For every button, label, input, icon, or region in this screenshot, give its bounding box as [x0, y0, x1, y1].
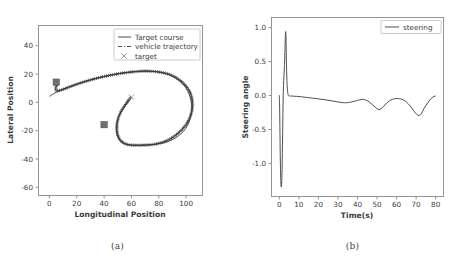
legend-label-target-course: Target course — [134, 33, 184, 42]
x-tick-label: 30 — [333, 200, 343, 209]
obstacle-marker — [101, 121, 107, 127]
y-tick-label: -20 — [21, 126, 33, 135]
y-axis-title: Steering angle — [241, 76, 250, 139]
legend-a: Target course vehicle trajectory target — [114, 29, 200, 61]
x-tick-label: 40 — [353, 200, 363, 209]
x-tick-label: 60 — [127, 199, 137, 208]
x-tick-label: 40 — [100, 199, 110, 208]
legend-label-target: target — [135, 52, 157, 61]
y-tick-label: 20 — [24, 70, 34, 79]
y-tick-label: 0.5 — [255, 57, 266, 66]
x-tick-label: 50 — [372, 200, 382, 209]
figure-container: 40 20 0 -20 -40 -60 Lateral Position 0 — [0, 0, 470, 258]
plot-frame-b — [272, 18, 444, 197]
x-tick-label: 80 — [431, 200, 441, 209]
axes-box — [272, 18, 444, 197]
y-tick-label: -40 — [21, 155, 33, 164]
y-tick-label: 0 — [28, 98, 33, 107]
y-tick-label: 1.0 — [255, 23, 267, 32]
trajectory-plot: 40 20 0 -20 -40 -60 Lateral Position 0 — [0, 0, 235, 232]
x-tick-label: 80 — [154, 199, 164, 208]
obstacle-marker — [53, 79, 59, 85]
subplot-b: 1.0 0.5 0.0 -0.5 -1.0 Steering angle 0 1… — [235, 0, 470, 258]
y-tick-label: 0.0 — [255, 91, 267, 100]
x-tick-label: 70 — [412, 200, 422, 209]
y-tick-label: -1.0 — [252, 159, 266, 168]
steering-plot: 1.0 0.5 0.0 -0.5 -1.0 Steering angle 0 1… — [235, 0, 470, 232]
y-tick-label: -0.5 — [252, 125, 266, 134]
y-axis-a: 40 20 0 -20 -40 -60 Lateral Position — [6, 41, 39, 192]
x-axis-b: 0 10 20 30 40 50 60 70 80 Time(s) — [277, 197, 441, 221]
x-tick-label: 20 — [72, 199, 82, 208]
x-tick-label: 100 — [179, 199, 193, 208]
y-axis-title: Lateral Position — [6, 76, 15, 144]
y-axis-b: 1.0 0.5 0.0 -0.5 -1.0 Steering angle — [241, 23, 272, 168]
subplot-caption-b: (b) — [235, 241, 470, 251]
subplot-caption-a: (a) — [0, 241, 235, 251]
legend-b: steering — [381, 21, 441, 34]
y-tick-group — [269, 28, 272, 164]
x-axis-a: 0 20 40 60 80 100 Longitudinal Position — [47, 196, 193, 220]
y-tick-label: 40 — [24, 41, 34, 50]
x-tick-label: 0 — [47, 199, 52, 208]
y-tick-label: -60 — [21, 183, 33, 192]
legend-label-steering: steering — [403, 23, 432, 32]
x-tick-label: 0 — [277, 200, 282, 209]
legend-label-vehicle-trajectory: vehicle trajectory — [135, 42, 199, 51]
x-axis-title: Time(s) — [341, 211, 373, 220]
x-axis-title: Longitudinal Position — [74, 210, 165, 219]
x-tick-label: 10 — [294, 200, 304, 209]
x-tick-label: 60 — [392, 200, 402, 209]
x-tick-label: 20 — [314, 200, 324, 209]
subplot-a: 40 20 0 -20 -40 -60 Lateral Position 0 — [0, 0, 235, 258]
